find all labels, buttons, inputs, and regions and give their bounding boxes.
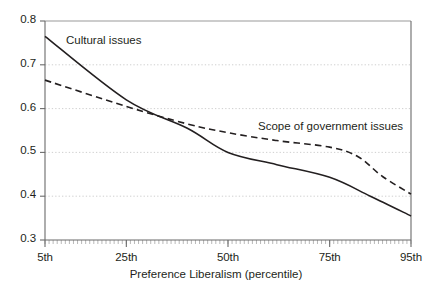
y-tick-label: 0.8 — [0, 13, 36, 25]
x-tick-label: 5th — [5, 251, 85, 263]
x-tick-label: 50th — [188, 251, 268, 263]
scope-of-government-label: Scope of government issues — [258, 120, 403, 132]
y-tick-label: 0.5 — [0, 144, 36, 156]
y-tick-label: 0.4 — [0, 188, 36, 200]
y-tick-label: 0.7 — [0, 57, 36, 69]
x-tick-label: 95th — [371, 251, 432, 263]
y-tick-label: 0.6 — [0, 101, 36, 113]
x-tick-label: 25th — [86, 251, 166, 263]
x-axis-title: Preference Liberalism (percentile) — [0, 268, 432, 280]
cultural-issues-label: Cultural issues — [66, 34, 141, 46]
series-line — [45, 80, 411, 194]
line-chart: 0.30.40.50.60.70.8 5th25th50th75th95th C… — [0, 0, 432, 295]
y-tick-label: 0.3 — [0, 232, 36, 244]
y-axis-ticks — [40, 21, 45, 240]
x-tick-label: 75th — [290, 251, 370, 263]
x-axis-major-ticks — [45, 240, 411, 247]
